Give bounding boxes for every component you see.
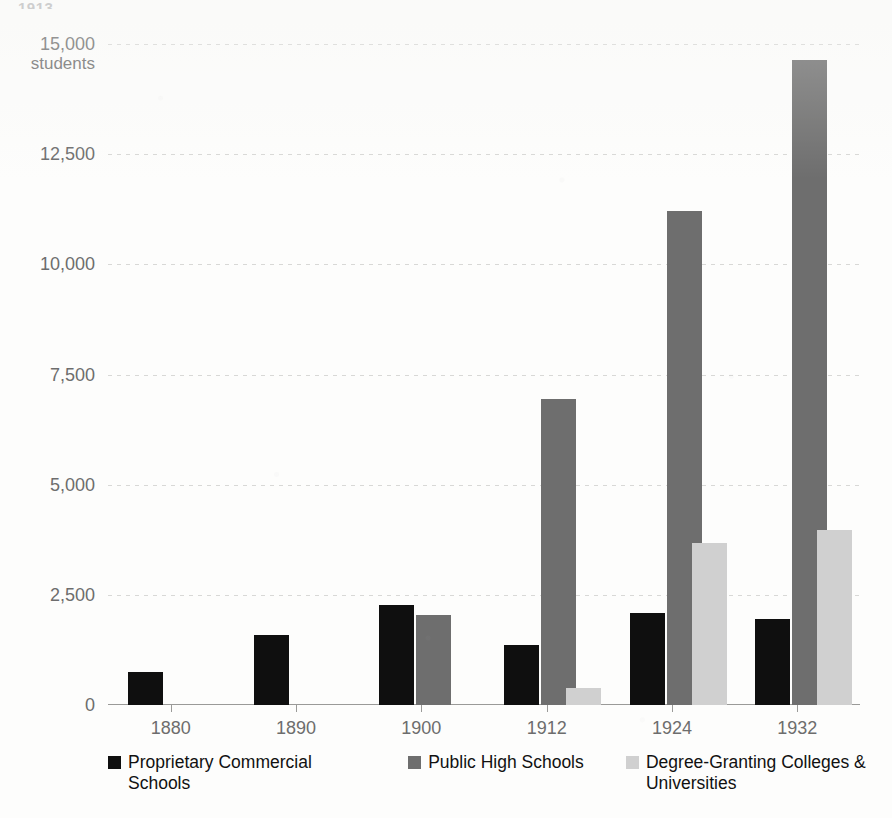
bar[interactable] — [254, 635, 289, 705]
x-axis-tick — [421, 705, 422, 712]
x-axis-tick-label: 1880 — [151, 718, 191, 739]
bar[interactable] — [566, 688, 601, 705]
x-axis-tick — [797, 705, 798, 712]
x-axis-tick — [672, 705, 673, 712]
bar[interactable] — [817, 530, 852, 705]
y-axis-tick-label: 10,000 — [40, 254, 95, 274]
plot-area: 02,5005,0007,50010,00012,50015,000studen… — [108, 44, 860, 705]
y-axis-tick-label: 7,500 — [50, 365, 95, 385]
y-axis-tick-label: 2,500 — [50, 585, 95, 605]
legend-item[interactable]: Public High Schools — [408, 752, 626, 794]
bar[interactable] — [692, 543, 727, 705]
x-axis-tick-label: 1924 — [652, 718, 692, 739]
bar-group: 1932 — [755, 44, 852, 705]
bar[interactable] — [755, 619, 790, 705]
chart-legend: Proprietary Commercial SchoolsPublic Hig… — [108, 752, 868, 794]
bar-group: 1880 — [128, 44, 225, 705]
legend-swatch-icon — [408, 756, 421, 769]
bar-group: 1890 — [254, 44, 351, 705]
legend-swatch-icon — [108, 756, 121, 769]
x-axis-tick-label: 1912 — [527, 718, 567, 739]
x-axis-tick-label: 1932 — [777, 718, 817, 739]
y-axis-unit-label: students — [31, 54, 95, 74]
y-axis-tick-label: 12,500 — [40, 144, 95, 164]
legend-item-label: Degree-Granting Colleges & Universities — [646, 752, 868, 794]
y-axis-tick-label: 5,000 — [50, 475, 95, 495]
legend-item[interactable]: Degree-Granting Colleges & Universities — [626, 752, 868, 794]
bar[interactable] — [416, 615, 451, 705]
legend-item-label: Proprietary Commercial Schools — [128, 752, 328, 794]
x-axis-tick — [171, 705, 172, 712]
legend-item-label: Public High Schools — [428, 752, 584, 773]
y-axis-tick-label: 0 — [85, 695, 95, 715]
bar-group: 1924 — [630, 44, 727, 705]
bar-group: 1912 — [504, 44, 601, 705]
grouped-bar-chart: 02,5005,0007,50010,00012,50015,000studen… — [0, 0, 892, 818]
y-axis-tick-label: 15,000students — [31, 34, 95, 74]
bar[interactable] — [504, 645, 539, 705]
bar-group: 1900 — [379, 44, 476, 705]
x-axis-tick — [296, 705, 297, 712]
x-axis-tick — [547, 705, 548, 712]
x-axis-tick-label: 1900 — [401, 718, 441, 739]
bar[interactable] — [128, 672, 163, 705]
legend-swatch-icon — [626, 756, 639, 769]
bar[interactable] — [541, 399, 576, 705]
bar[interactable] — [630, 613, 665, 705]
cut-off-page-heading: 1913 — [18, 0, 53, 9]
legend-item[interactable]: Proprietary Commercial Schools — [108, 752, 408, 794]
bar[interactable] — [379, 605, 414, 705]
x-axis-tick-label: 1890 — [276, 718, 316, 739]
